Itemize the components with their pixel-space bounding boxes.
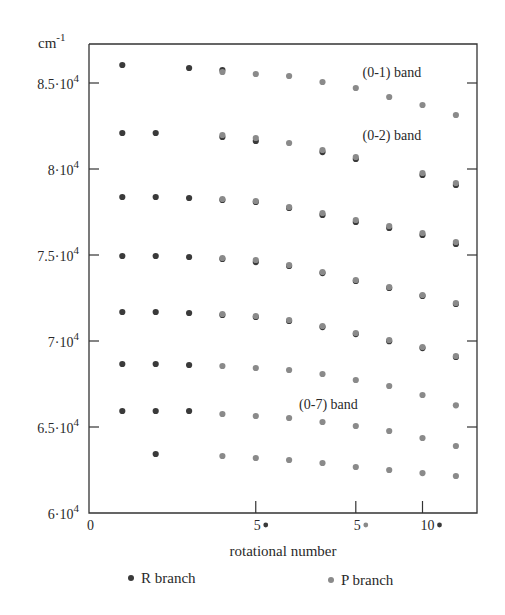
p-branch-point bbox=[319, 210, 325, 216]
p-branch-point bbox=[453, 353, 459, 359]
p-branch-point bbox=[319, 79, 325, 85]
legend-r-branch-marker bbox=[128, 575, 134, 581]
p-branch-point bbox=[219, 69, 225, 75]
p-branch-point bbox=[353, 154, 359, 160]
p-branch-point bbox=[353, 85, 359, 91]
p-branch-point bbox=[286, 204, 292, 210]
p-branch-point bbox=[319, 323, 325, 329]
p-branch-point bbox=[319, 371, 325, 377]
p-branch-point bbox=[419, 230, 425, 236]
p-branch-point bbox=[386, 467, 392, 473]
r-branch-point bbox=[119, 309, 125, 315]
p-branch-point bbox=[419, 470, 425, 476]
legend-p-branch-marker bbox=[328, 577, 334, 583]
p-branch-point bbox=[253, 365, 259, 371]
x-tick-r-marker bbox=[263, 523, 268, 528]
p-branch-point bbox=[253, 455, 259, 461]
r-branch-point bbox=[153, 309, 159, 315]
y-tick-label: 8.5·104 bbox=[37, 72, 79, 92]
p-branch-point bbox=[286, 415, 292, 421]
x-tick-label: 0 bbox=[87, 518, 94, 533]
p-branch-point bbox=[353, 217, 359, 223]
p-branch-point bbox=[353, 377, 359, 383]
p-branch-point bbox=[453, 112, 459, 118]
p-branch-point bbox=[219, 411, 225, 417]
r-branch-point bbox=[186, 310, 192, 316]
p-branch-point bbox=[453, 473, 459, 479]
y-tick-label: 6.5·104 bbox=[37, 416, 79, 436]
r-branch-point bbox=[186, 65, 192, 71]
p-branch-point bbox=[319, 419, 325, 425]
y-tick-label: 7·104 bbox=[48, 330, 80, 350]
p-branch-point bbox=[319, 460, 325, 466]
r-branch-point bbox=[153, 408, 159, 414]
p-branch-point bbox=[286, 317, 292, 323]
p-branch-point bbox=[286, 457, 292, 463]
y-tick-label: 7.5·104 bbox=[37, 244, 79, 264]
plot-area bbox=[89, 44, 477, 513]
p-branch-point bbox=[253, 413, 259, 419]
p-branch-point bbox=[253, 257, 259, 263]
p-branch-point bbox=[386, 223, 392, 229]
r-branch-point bbox=[186, 195, 192, 201]
p-branch-point bbox=[219, 311, 225, 317]
p-branch-point bbox=[453, 443, 459, 449]
p-branch-point bbox=[286, 262, 292, 268]
p-branch-point bbox=[319, 147, 325, 153]
p-branch-point bbox=[219, 363, 225, 369]
p-branch-point bbox=[453, 300, 459, 306]
x-axis-label: rotational number bbox=[229, 543, 336, 559]
p-branch-point bbox=[386, 428, 392, 434]
x-tick-r-marker bbox=[437, 523, 442, 528]
p-branch-point bbox=[453, 180, 459, 186]
p-branch-point bbox=[253, 135, 259, 141]
p-branch-point bbox=[419, 170, 425, 176]
r-branch-point bbox=[119, 361, 125, 367]
r-branch-point bbox=[119, 62, 125, 68]
y-axis-unit: cm-1 bbox=[38, 31, 66, 51]
spectrum-chart: 6·1046.5·1047·1047.5·1048·1048.5·104 055… bbox=[0, 0, 505, 615]
x-tick-p-marker bbox=[363, 523, 368, 528]
p-branch-point bbox=[353, 464, 359, 470]
legend-p-branch-label: P branch bbox=[341, 572, 394, 588]
p-branch-point bbox=[419, 344, 425, 350]
p-branch-point bbox=[319, 269, 325, 275]
band-label: (0-2) band bbox=[362, 128, 421, 144]
r-branch-point bbox=[186, 362, 192, 368]
r-branch-point bbox=[186, 254, 192, 260]
r-branch-point bbox=[119, 253, 125, 259]
p-branch-point bbox=[353, 277, 359, 283]
p-branch-point bbox=[419, 435, 425, 441]
p-branch-point bbox=[453, 402, 459, 408]
p-branch-point bbox=[253, 198, 259, 204]
p-branch-point bbox=[386, 383, 392, 389]
y-tick-label: 8·104 bbox=[48, 158, 80, 178]
p-branch-point bbox=[286, 73, 292, 79]
band-label: (0-1) band bbox=[362, 65, 421, 81]
band-label: (0-7) band bbox=[299, 397, 358, 413]
p-branch-point bbox=[419, 392, 425, 398]
r-branch-point bbox=[153, 194, 159, 200]
p-branch-point bbox=[219, 453, 225, 459]
p-branch-point bbox=[253, 313, 259, 319]
legend: R branch P branch bbox=[128, 570, 394, 588]
p-branch-point bbox=[219, 196, 225, 202]
r-branch-point bbox=[119, 130, 125, 136]
p-branch-point bbox=[419, 102, 425, 108]
r-branch-point bbox=[119, 194, 125, 200]
r-branch-point bbox=[119, 408, 125, 414]
x-tick-label: 10 bbox=[421, 518, 435, 533]
p-branch-point bbox=[286, 140, 292, 146]
r-branch-point bbox=[153, 361, 159, 367]
p-branch-point bbox=[219, 255, 225, 261]
p-branch-point bbox=[286, 367, 292, 373]
p-branch-point bbox=[219, 132, 225, 138]
x-tick-label: 5 bbox=[254, 518, 261, 533]
p-branch-point bbox=[453, 239, 459, 245]
r-branch-point bbox=[153, 253, 159, 259]
legend-r-branch-label: R branch bbox=[141, 570, 196, 586]
p-branch-point bbox=[386, 284, 392, 290]
p-branch-point bbox=[419, 292, 425, 298]
x-tick-label: 5 bbox=[354, 518, 361, 533]
p-branch-point bbox=[353, 423, 359, 429]
